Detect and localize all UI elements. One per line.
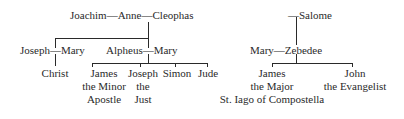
- connector-line: [55, 38, 149, 39]
- connector-line: [148, 54, 149, 63]
- child-james-the-minor: James the Minor Apostle: [82, 67, 126, 106]
- connector-line: [272, 63, 353, 64]
- connector-line: [92, 63, 208, 64]
- child-jude: Jude: [198, 67, 218, 80]
- child-joseph-the-just: Joseph the Just: [128, 67, 158, 106]
- connector-line: [296, 54, 297, 63]
- grandparent-salome: —Salome: [288, 9, 332, 22]
- connector-line: [148, 22, 149, 39]
- couple-alpheus-mary: Alpheus—Mary: [106, 44, 178, 57]
- couple-joseph-mary: Joseph—Mary: [20, 44, 85, 57]
- connector-line: [55, 54, 56, 66]
- connector-line: [296, 17, 297, 45]
- child-james-the-major: James the Major St. Iago of Compostella: [220, 67, 325, 106]
- child-john-the-evangelist: John the Evangelist: [324, 67, 387, 93]
- child-simon: Simon: [163, 67, 192, 80]
- couple-mary-zebedee: Mary—Zebedee: [250, 44, 322, 57]
- child-christ: Christ: [42, 67, 69, 80]
- grandparents-joachim-anne-cleophas: Joachim—Anne—Cleophas: [70, 9, 193, 22]
